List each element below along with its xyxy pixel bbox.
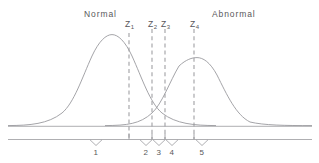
region-label-1: 1 xyxy=(94,149,98,157)
region-label-4: 4 xyxy=(170,149,174,157)
abnormal-distribution-curve xyxy=(105,58,312,126)
normal-curve-label: Normal xyxy=(84,10,117,19)
region-marker-3 xyxy=(153,140,165,146)
region-marker-2 xyxy=(140,140,152,146)
cutoff-label-z3-sub: 3 xyxy=(167,24,170,30)
distribution-diagram: Normal Abnormal Z1 Z2 Z3 Z4 1 2 3 4 5 xyxy=(0,0,319,163)
normal-distribution-curve xyxy=(8,35,216,126)
region-marker-1 xyxy=(90,140,102,146)
region-label-2: 2 xyxy=(144,149,148,157)
cutoff-label-z1: Z1 xyxy=(125,20,134,29)
cutoff-label-z1-base: Z xyxy=(125,19,131,29)
cutoff-label-z1-sub: 1 xyxy=(131,24,134,30)
cutoff-label-z2-base: Z xyxy=(148,19,154,29)
region-label-3: 3 xyxy=(157,149,161,157)
cutoff-label-z4-sub: 4 xyxy=(196,24,199,30)
abnormal-curve-label: Abnormal xyxy=(212,10,256,19)
diagram-canvas xyxy=(0,0,319,163)
cutoff-label-z4-base: Z xyxy=(190,19,196,29)
cutoff-label-z3-base: Z xyxy=(161,19,167,29)
region-marker-4 xyxy=(166,140,178,146)
cutoff-label-z2-sub: 2 xyxy=(154,24,157,30)
cutoff-label-z4: Z4 xyxy=(190,20,199,29)
region-marker-5 xyxy=(196,140,208,146)
region-label-5: 5 xyxy=(200,149,204,157)
cutoff-label-z3: Z3 xyxy=(161,20,170,29)
cutoff-label-z2: Z2 xyxy=(148,20,157,29)
